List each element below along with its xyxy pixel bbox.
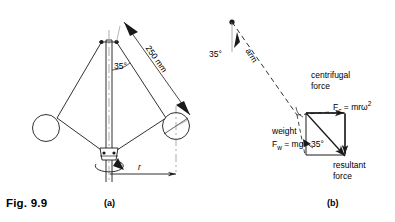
resultant-force-label-line2: force: [333, 172, 352, 182]
lower-links: [57, 118, 166, 152]
panel-b-arm-line: [232, 22, 297, 115]
radius-label: r: [138, 163, 141, 173]
panel-b-caption: (b): [327, 198, 339, 208]
fw-equation: Fw = mg: [272, 140, 303, 151]
panel-b-angle-arrow: [234, 32, 240, 48]
panel-a-angle-label: 35°: [114, 62, 127, 72]
triangle-angle-label: 35°: [311, 140, 324, 150]
centrifugal-force-label-line1: centrifugal: [311, 71, 350, 81]
figure-caption: Fig. 9.9: [6, 197, 47, 210]
resultant-force-label-line1: resultant: [333, 161, 366, 171]
fc-equation: Fc = mrω2: [333, 100, 371, 114]
panel-a-governor: [33, 22, 191, 182]
fc-power: 2: [368, 100, 372, 107]
fc-omega: ω: [361, 102, 368, 112]
sleeve-collar: [100, 148, 118, 160]
left-flyball: [33, 115, 60, 142]
dimension-250mm: [117, 22, 191, 126]
fc-equals: = mr: [341, 102, 361, 112]
figure-9-9-container: Fig. 9.9 (a) (b) 35° 250 mm r 35° arm ce…: [0, 0, 395, 222]
weight-label: weight: [272, 127, 297, 137]
panel-a-caption: (a): [104, 198, 115, 208]
fw-equals: = mg: [282, 139, 304, 149]
centrifugal-force-label-line2: force: [311, 82, 330, 92]
panel-b-angle-label: 35°: [209, 50, 222, 60]
